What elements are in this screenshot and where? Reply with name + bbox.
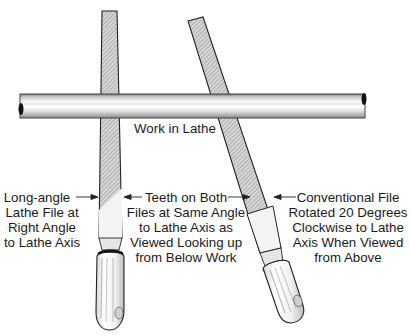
left-label-line: Lathe File at xyxy=(2,205,82,220)
right-label-line: Conventional File xyxy=(288,190,408,205)
conventional-file-label: Conventional File Rotated 20 Degrees Clo… xyxy=(288,190,408,265)
work-in-lathe-text: Work in Lathe xyxy=(134,121,216,136)
long-angle-file-label: Long-angle Lathe File at Right Angle to … xyxy=(2,190,82,250)
center-label-line: Teeth on Both xyxy=(124,190,248,205)
center-label-line: from Below Work xyxy=(124,250,248,265)
left-label-line: to Lathe Axis xyxy=(2,235,82,250)
teeth-same-angle-label: Teeth on Both Files at Same Angle to Lat… xyxy=(124,190,248,265)
right-label-line: from Above xyxy=(288,250,408,265)
center-label-line: Viewed Looking up xyxy=(124,235,248,250)
right-label-line: Clockwise to Lathe xyxy=(288,220,408,235)
right-label-line: Axis When Viewed xyxy=(288,235,408,250)
center-label-line: to Lathe Axis as xyxy=(124,220,248,235)
left-label-line: Right Angle xyxy=(2,220,82,235)
right-label-line: Rotated 20 Degrees xyxy=(288,205,408,220)
left-label-line: Long-angle xyxy=(2,190,82,205)
work-in-lathe-label: Work in Lathe xyxy=(134,121,216,136)
work-in-lathe-rod xyxy=(19,93,367,118)
long-angle-lathe-file xyxy=(96,11,124,330)
center-label-line: Files at Same Angle xyxy=(124,205,248,220)
lathe-filing-illustration xyxy=(0,0,410,336)
conventional-file-rotated xyxy=(188,17,304,323)
